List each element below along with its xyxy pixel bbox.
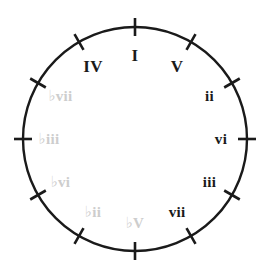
tick-mark (224, 79, 240, 88)
tick-mark (224, 191, 240, 200)
degree-label-10: ♭vii (48, 89, 72, 104)
degree-label-6: ♭V (126, 216, 145, 231)
tick-mark (30, 79, 46, 88)
degree-label-8: ♭vi (51, 175, 71, 190)
degree-label-7: ♭ii (85, 204, 101, 219)
degree-label-2: ii (205, 89, 214, 104)
degree-label-12: I (131, 47, 138, 64)
degree-label-3: vi (215, 132, 227, 147)
tick-mark (75, 228, 84, 244)
tick-mark (75, 34, 84, 50)
degree-label-4: iii (203, 175, 216, 190)
degree-label-11: IV (83, 58, 103, 75)
degree-label-9: ♭iii (39, 132, 60, 147)
degree-label-1: V (171, 58, 184, 75)
tick-mark (187, 34, 196, 50)
circle-of-fifths-diagram: IViiviiiivii♭V♭ii♭vi♭iii♭viiIV (0, 0, 271, 279)
degree-label-5: vii (169, 204, 186, 219)
tick-mark (30, 191, 46, 200)
tick-mark (187, 228, 196, 244)
